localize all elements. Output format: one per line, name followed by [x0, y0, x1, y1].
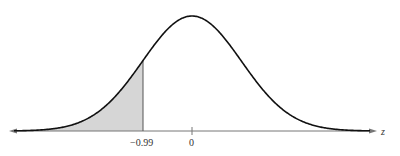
tick-label-zero: 0 — [189, 138, 194, 148]
axis-label-z: z — [381, 127, 385, 137]
normal-curve — [14, 16, 370, 131]
normal-curve-figure — [0, 0, 400, 156]
tick-label-neg: −0.99 — [130, 138, 153, 148]
shaded-left-tail — [14, 61, 143, 131]
right-arrow-icon — [369, 129, 377, 134]
